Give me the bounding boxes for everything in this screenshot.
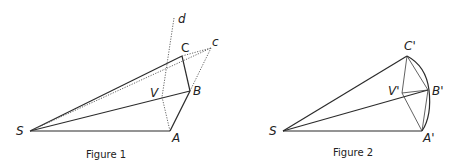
chord-CB-prime: [407, 56, 428, 90]
edge-VA-prime: [402, 93, 422, 131]
label-V-prime: V': [388, 84, 400, 98]
edge-VC-prime: [402, 56, 407, 93]
dotted-Sc: [30, 48, 211, 131]
label-A-prime: A': [422, 131, 435, 145]
caption-figure-2: Figure 2: [333, 147, 373, 158]
edge-BC: [182, 56, 190, 91]
caption-figure-1: Figure 1: [86, 149, 126, 160]
label-d: d: [178, 12, 186, 26]
label-A: A: [171, 131, 180, 145]
edge-SB-prime: [283, 90, 428, 131]
label-C-prime: C': [404, 39, 416, 53]
dotted-line-d: [162, 18, 174, 97]
edge-SB: [30, 91, 190, 131]
label-S: S: [16, 124, 24, 138]
label-B: B: [193, 84, 201, 98]
edge-SC: [30, 56, 182, 131]
diagram-canvas: S A B C c V d Figure 1 S A' B' C' V' Fig…: [0, 0, 455, 167]
label-c: c: [212, 35, 219, 49]
figure-2: S A' B' C' V' Figure 2: [269, 39, 444, 158]
label-B-prime: B': [432, 84, 444, 98]
figure-1: S A B C c V d Figure 1: [16, 12, 219, 160]
label-V: V: [150, 86, 159, 100]
dotted-VA: [162, 97, 170, 131]
label-C: C: [181, 41, 189, 55]
label-S2: S: [269, 124, 277, 138]
edge-AB: [170, 91, 190, 131]
